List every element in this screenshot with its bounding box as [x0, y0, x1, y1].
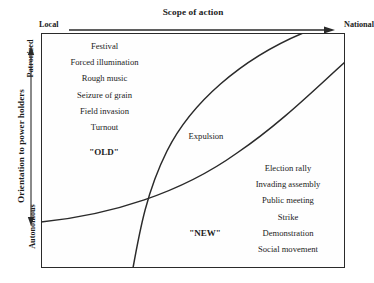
expulsion-label: Expulsion	[168, 131, 244, 141]
list-item: Festival	[47, 38, 162, 54]
x-axis: Local National	[41, 20, 345, 32]
new-repertoire-tag: "NEW"	[168, 228, 242, 238]
y-axis-title: Orientation to power holders	[16, 71, 26, 221]
list-item: Seizure of grain	[47, 87, 162, 103]
list-item: Social movement	[232, 241, 344, 257]
list-item: Strike	[232, 209, 344, 225]
x-axis-title: Scope of action	[41, 7, 345, 17]
list-item: Demonstration	[232, 225, 344, 241]
list-item: Rough music	[47, 70, 162, 86]
new-repertoire-list: Election rally Invading assembly Public …	[232, 160, 344, 257]
list-item: Turnout	[47, 119, 162, 135]
x-axis-right-tick-label: National	[344, 20, 374, 29]
old-repertoire-list: Festival Forced illumination Rough music…	[47, 38, 162, 135]
old-repertoire-tag: "OLD"	[64, 147, 144, 157]
x-axis-left-tick-label: Local	[39, 20, 59, 29]
list-item: Forced illumination	[47, 54, 162, 70]
list-item: Public meeting	[232, 192, 344, 208]
list-item: Invading assembly	[232, 176, 344, 192]
arrow-up-down-icon	[26, 46, 36, 226]
list-item: Field invasion	[47, 103, 162, 119]
list-item: Election rally	[232, 160, 344, 176]
